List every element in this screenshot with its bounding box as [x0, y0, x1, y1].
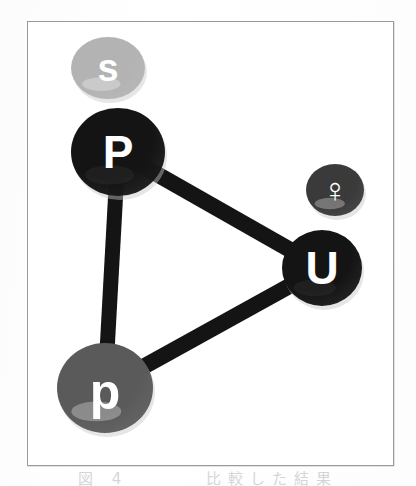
- figure-root: sP♀Up 図 4 比較した結果: [0, 0, 416, 486]
- node-layer: sP♀Up: [57, 37, 366, 437]
- figure-frame-inner: sP♀Up: [28, 22, 393, 465]
- graph-canvas: sP♀Up: [28, 22, 393, 465]
- node-label-p: p: [90, 364, 121, 420]
- node-label-venus: ♀: [322, 171, 348, 209]
- figure-caption: 図 4 比較した結果: [0, 470, 416, 486]
- graph-node-s[interactable]: s: [71, 37, 147, 103]
- node-label-P: P: [103, 126, 134, 178]
- graph-node-P[interactable]: P: [71, 108, 167, 200]
- figure-frame: sP♀Up: [27, 21, 394, 466]
- node-label-U: U: [305, 242, 338, 294]
- graph-node-U[interactable]: U: [282, 230, 364, 310]
- graph-node-venus[interactable]: ♀: [306, 164, 366, 220]
- graph-node-p[interactable]: p: [57, 343, 155, 437]
- caption-strip: 図 4 比較した結果: [0, 470, 416, 486]
- node-label-s: s: [97, 47, 118, 89]
